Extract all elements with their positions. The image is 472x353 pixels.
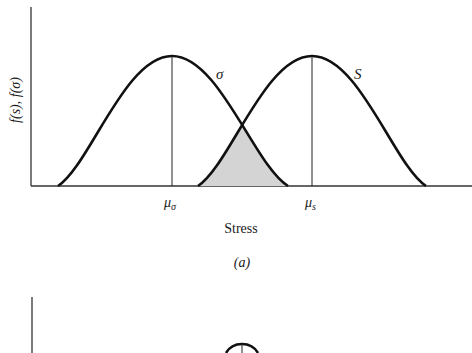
panel-caption: (a) xyxy=(234,255,251,271)
strength-mean-label: μs xyxy=(304,195,316,212)
strength-curve-label: S xyxy=(354,66,362,82)
stress-strength-interference-diagram: σ S μσ μs Stress f(s), f(σ) (a) xyxy=(0,0,472,353)
x-axis-label: Stress xyxy=(224,221,257,236)
stress-mean-label: μσ xyxy=(163,195,177,212)
y-axis-label: f(s), f(σ) xyxy=(8,77,24,123)
stress-curve-label: σ xyxy=(216,66,224,82)
